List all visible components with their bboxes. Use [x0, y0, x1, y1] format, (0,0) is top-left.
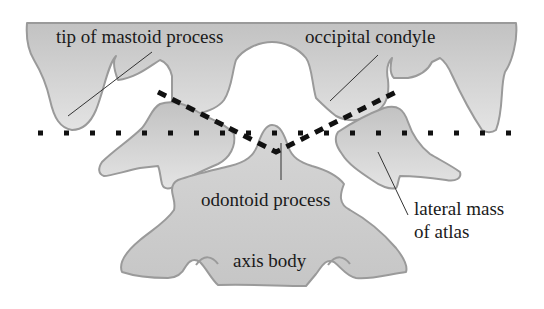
label-mastoid: tip of mastoid process [56, 26, 223, 47]
label-of-atlas: of atlas [414, 221, 469, 242]
label-condyle: occipital condyle [305, 26, 435, 47]
label-axis-body: axis body [233, 250, 307, 271]
label-lateral-mass: lateral mass [414, 198, 504, 219]
craniovertebral-junction-diagram: tip of mastoid process occipital condyle… [0, 0, 544, 309]
label-odontoid: odontoid process [201, 189, 330, 210]
